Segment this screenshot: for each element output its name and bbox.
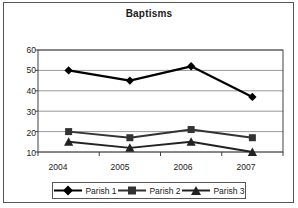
data-point xyxy=(126,134,133,141)
data-point xyxy=(188,126,195,133)
data-point xyxy=(249,134,256,141)
series-parish-2 xyxy=(65,126,256,141)
legend-item-parish-2[interactable]: Parish 2 xyxy=(117,185,180,196)
data-point xyxy=(248,93,256,101)
legend-item-parish-1[interactable]: Parish 1 xyxy=(53,185,116,196)
data-point xyxy=(64,66,72,74)
chart-legend: Parish 1 Parish 2 Parish 3 xyxy=(52,182,246,199)
series-line xyxy=(69,66,253,97)
chart-container: Baptisms 60 50 40 30 20 10 2004 2005 200… xyxy=(0,0,298,208)
legend-item-parish-3[interactable]: Parish 3 xyxy=(181,185,244,196)
series-line xyxy=(69,130,253,138)
diamond-marker-icon xyxy=(53,185,83,196)
series-parish-1 xyxy=(64,62,256,101)
data-point xyxy=(126,76,134,84)
data-point xyxy=(187,62,195,70)
square-marker-icon xyxy=(117,185,147,196)
series-layer xyxy=(64,62,257,156)
legend-label-parish-3: Parish 3 xyxy=(213,186,244,196)
legend-label-parish-1: Parish 1 xyxy=(85,186,116,196)
legend-label-parish-2: Parish 2 xyxy=(149,186,180,196)
series-line xyxy=(69,142,253,152)
plot-area xyxy=(0,0,298,208)
axis-lines xyxy=(35,50,283,156)
data-point xyxy=(65,128,72,135)
triangle-marker-icon xyxy=(181,185,211,196)
